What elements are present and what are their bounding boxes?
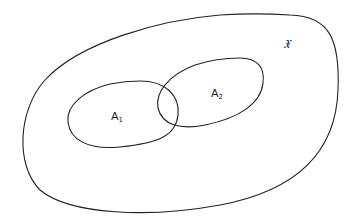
set-a1-boundary (68, 81, 178, 148)
set-a2-subscript: 2 (219, 93, 223, 101)
set-a2-label: A2 (211, 88, 223, 101)
set-a1-subscript: 1 (119, 116, 123, 124)
universe-label: 𝔛 (283, 38, 290, 50)
diagram-shapes (0, 0, 353, 221)
set-a2-name: A (211, 87, 219, 100)
venn-diagram: 𝔛 A1 A2 (0, 0, 353, 221)
set-a1-label: A1 (111, 111, 123, 124)
universe-boundary (23, 14, 338, 213)
set-a1-name: A (111, 110, 119, 123)
